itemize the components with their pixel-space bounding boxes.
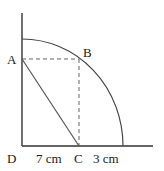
geometry-diagram: A B C D 7 cm 3 cm — [0, 0, 164, 171]
label-c: C — [74, 151, 83, 166]
label-a: A — [7, 52, 17, 67]
quarter-arc — [22, 39, 123, 146]
label-d: D — [7, 151, 16, 166]
measurement-c-arc: 3 cm — [93, 151, 119, 166]
segment-ac — [22, 59, 79, 146]
measurement-dc: 7 cm — [36, 151, 62, 166]
label-b: B — [83, 45, 92, 60]
